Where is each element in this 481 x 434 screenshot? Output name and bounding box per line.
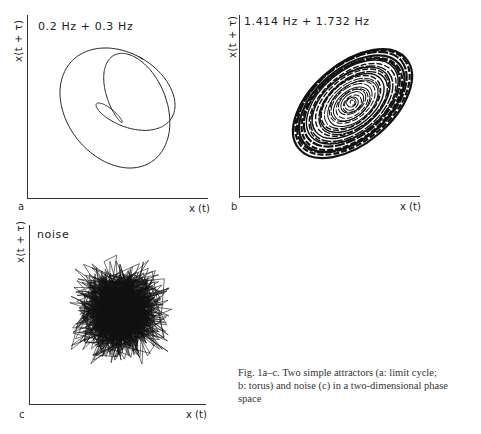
caption-line-2: b: torus) and noise (c) in a two-dimensi…	[238, 379, 478, 392]
panel-c-noise-plot	[0, 0, 240, 434]
caption-line-3: space	[238, 392, 478, 405]
caption-line-1: Fig. 1a–c. Two simple attractors (a: lim…	[238, 366, 478, 379]
figure-caption: Fig. 1a–c. Two simple attractors (a: lim…	[238, 366, 478, 405]
